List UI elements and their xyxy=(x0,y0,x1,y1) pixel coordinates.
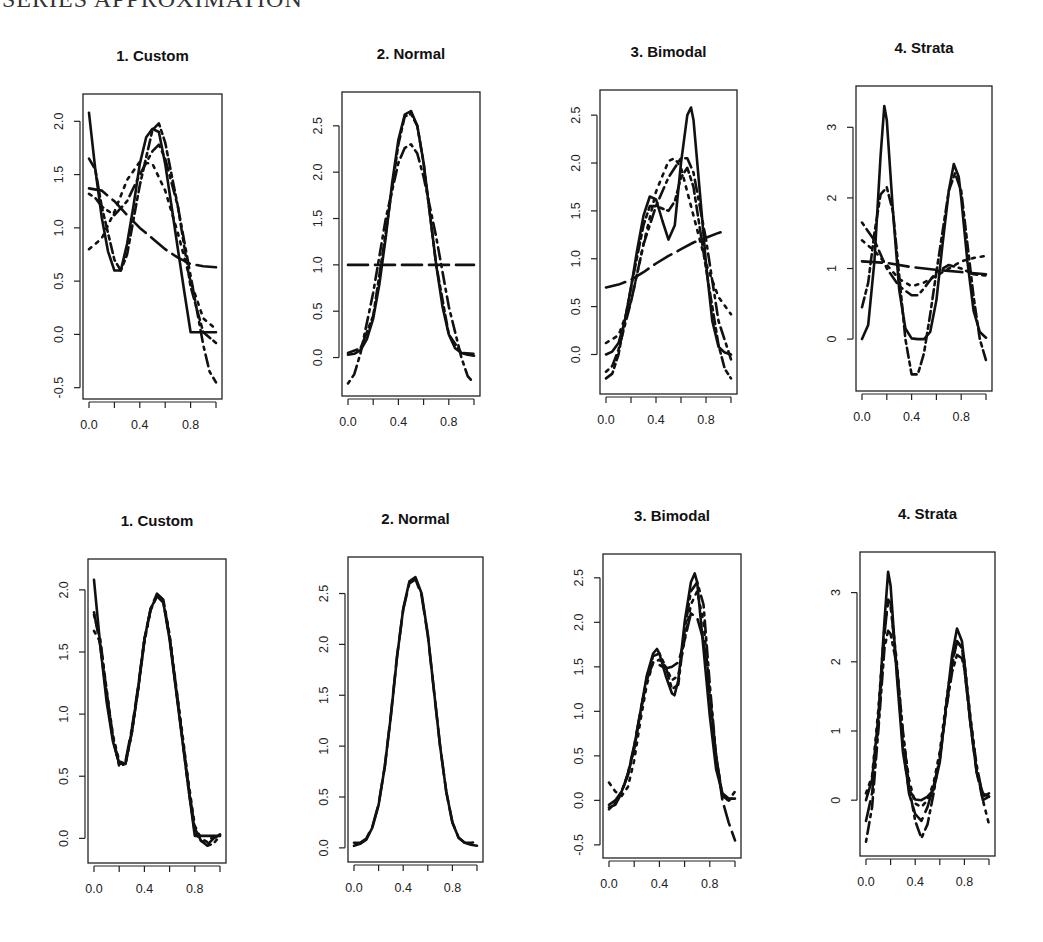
panel-title: 4. Strata xyxy=(898,505,958,522)
x-tick-label: 0.0 xyxy=(85,882,102,896)
y-tick-label: 2.0 xyxy=(569,154,583,171)
series-line-longdash xyxy=(609,613,735,840)
y-tick-label: 2.5 xyxy=(317,585,331,602)
y-tick-label: 1.0 xyxy=(572,703,586,720)
x-axis: 0.00.40.8 xyxy=(857,859,989,889)
series-line-dotdash xyxy=(94,596,220,846)
panel-row2-strata: 4. Strata0.00.40.80123 xyxy=(829,505,995,889)
y-tick-label: 2.0 xyxy=(317,636,331,653)
x-axis: 0.00.40.8 xyxy=(853,394,986,424)
y-tick-label: 0.5 xyxy=(57,768,71,785)
y-tick-label: 3 xyxy=(829,589,843,596)
series-line-solid xyxy=(354,577,477,846)
series-line-solid xyxy=(94,580,220,836)
series-line-longdash xyxy=(94,594,220,845)
series-line-dotted xyxy=(94,595,220,842)
x-tick-label: 0.8 xyxy=(697,413,714,427)
x-tick-label: 0.8 xyxy=(956,875,973,889)
y-tick-label: 1.5 xyxy=(52,166,66,183)
y-tick-label: 1.5 xyxy=(317,687,331,704)
panel-row1-bimodal: 3. Bimodal0.00.40.80.00.51.01.52.02.5 xyxy=(569,43,737,427)
panel-row1-normal: 2. Normal0.00.40.80.00.51.01.52.02.5 xyxy=(311,45,480,429)
plot-area xyxy=(348,111,474,384)
y-tick-label: 1.0 xyxy=(52,219,66,236)
x-tick-label: 0.0 xyxy=(600,877,617,891)
panel-row1-custom: 1. Custom0.00.40.8-0.50.00.51.01.52.0 xyxy=(52,47,222,432)
plot-area xyxy=(354,577,477,846)
y-tick-label: 0.0 xyxy=(572,792,586,809)
x-tick-label: 0.4 xyxy=(395,881,412,895)
y-axis: 0.00.51.01.52.02.5 xyxy=(311,117,339,366)
series-line-longdash xyxy=(354,579,477,843)
x-axis: 0.00.40.8 xyxy=(600,861,735,891)
y-tick-label: -0.5 xyxy=(572,834,586,856)
y-axis: -0.50.00.51.01.52.02.5 xyxy=(572,569,600,856)
y-tick-label: 2 xyxy=(825,194,839,201)
y-tick-label: 1 xyxy=(829,727,843,734)
y-tick-label: 1 xyxy=(825,265,839,272)
y-axis: -0.50.00.51.01.52.0 xyxy=(52,113,80,399)
x-axis: 0.00.40.8 xyxy=(345,865,477,895)
y-tick-label: 0.5 xyxy=(311,302,325,319)
y-tick-label: 2.5 xyxy=(572,569,586,586)
panel-title: 1. Custom xyxy=(116,47,189,64)
y-tick-label: 2.5 xyxy=(311,117,325,134)
y-tick-label: 0.0 xyxy=(569,346,583,363)
x-tick-label: 0.8 xyxy=(701,877,718,891)
x-tick-label: 0.8 xyxy=(182,418,199,432)
y-tick-label: 2.0 xyxy=(572,614,586,631)
y-tick-label: 0 xyxy=(825,336,839,343)
panel-row2-bimodal: 3. Bimodal0.00.40.8-0.50.00.51.01.52.02.… xyxy=(572,507,741,891)
y-tick-label: 1.5 xyxy=(572,658,586,675)
y-tick-label: 1.0 xyxy=(311,256,325,273)
panel-title: 4. Strata xyxy=(894,39,954,56)
x-tick-label: 0.8 xyxy=(186,882,203,896)
y-tick-label: 0 xyxy=(829,797,843,804)
x-tick-label: 0.4 xyxy=(903,410,920,424)
plot-frame xyxy=(83,94,222,399)
x-tick-label: 0.8 xyxy=(440,415,457,429)
y-axis: 0.00.51.01.52.02.5 xyxy=(317,585,345,857)
x-tick-label: 0.8 xyxy=(444,881,461,895)
y-tick-label: 1.0 xyxy=(317,737,331,754)
plot-frame xyxy=(603,554,741,858)
panel-row2-normal: 2. Normal0.00.40.80.00.51.01.52.02.5 xyxy=(317,510,483,895)
x-tick-label: 0.0 xyxy=(857,875,874,889)
x-tick-label: 0.4 xyxy=(390,415,407,429)
y-tick-label: 0.0 xyxy=(52,326,66,343)
y-axis: 0.00.51.01.52.02.5 xyxy=(569,106,597,363)
y-tick-label: 2.5 xyxy=(569,106,583,123)
x-axis: 0.00.40.8 xyxy=(597,397,731,427)
y-tick-label: 2.0 xyxy=(52,113,66,130)
panel-title: 3. Bimodal xyxy=(634,507,710,524)
y-tick-label: 1.0 xyxy=(57,705,71,722)
x-tick-label: 0.0 xyxy=(339,415,356,429)
y-axis: 0.00.51.01.52.0 xyxy=(57,581,85,847)
panel-title: 1. Custom xyxy=(121,512,194,529)
y-axis: 0123 xyxy=(829,589,857,804)
y-tick-label: 2 xyxy=(829,658,843,665)
x-tick-label: 0.4 xyxy=(651,877,668,891)
x-tick-label: 0.0 xyxy=(80,418,97,432)
x-axis: 0.00.40.8 xyxy=(85,866,220,896)
series-line-dotdash xyxy=(609,582,735,809)
panel-row1-strata: 4. Strata0.00.40.80123 xyxy=(825,39,992,424)
y-tick-label: 1.5 xyxy=(569,202,583,219)
x-axis: 0.00.40.8 xyxy=(80,402,216,432)
plot-area xyxy=(866,572,989,842)
panel-title: 3. Bimodal xyxy=(631,43,707,60)
figure: 1. Custom0.00.40.8-0.50.00.51.01.52.0 2.… xyxy=(0,0,1043,942)
y-tick-label: 0.0 xyxy=(317,839,331,856)
series-line-dotdash xyxy=(89,145,216,383)
x-tick-label: 0.0 xyxy=(345,881,362,895)
plot-frame xyxy=(348,557,483,862)
y-tick-label: 0.5 xyxy=(317,788,331,805)
series-line-dotdash xyxy=(606,158,731,372)
x-tick-label: 0.4 xyxy=(136,882,153,896)
x-tick-label: 0.8 xyxy=(953,410,970,424)
y-tick-label: 2.0 xyxy=(311,163,325,180)
y-tick-label: 0.5 xyxy=(572,747,586,764)
series-line-solid xyxy=(866,572,989,800)
panel-row2-custom: 1. Custom0.00.40.80.00.51.01.52.0 xyxy=(57,512,226,896)
y-tick-label: 1.5 xyxy=(57,643,71,660)
